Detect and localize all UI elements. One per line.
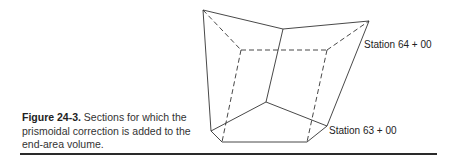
station-63-label: Station 63 + 00 [329,125,397,136]
bottom-rule [20,153,437,155]
figure-caption: Figure 24-3. Sections for which the pris… [22,111,197,152]
station-64-label: Station 64 + 00 [364,39,432,50]
lower-section-solid-edges [211,102,327,142]
figure-number: Figure 24-3. [22,111,81,123]
upper-section-solid-edges [203,10,369,29]
